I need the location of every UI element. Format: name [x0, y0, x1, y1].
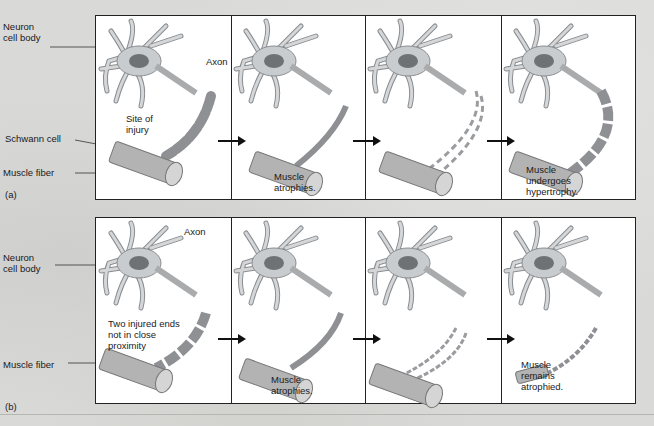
caption-b4: Muscle remains atrophied. [521, 359, 563, 392]
label-axon-a: Axon [206, 56, 228, 67]
label-site-of-injury: Site of injury [126, 113, 153, 135]
arrow-icon [218, 140, 240, 142]
caption-a4: Muscle undergoes hypertrophy. [526, 164, 578, 197]
label-two-injured-ends: Two injured ends not in close proximity [108, 318, 180, 351]
panel-row-a: Axon Site of injury Muscle atrophies. Mu… [95, 15, 636, 200]
arrow-icon [487, 140, 509, 142]
arrow-icon [353, 140, 375, 142]
label-axon-b: Axon [184, 226, 206, 237]
page-rule [0, 414, 654, 415]
caption-b2: Muscle atrophies. [271, 374, 313, 396]
arrow-icon [353, 338, 375, 340]
arrow-icon [487, 338, 509, 340]
panel-row-b: Axon Two injured ends not in close proxi… [95, 217, 636, 404]
arrow-icon [218, 338, 240, 340]
caption-a2: Muscle atrophies. [274, 171, 316, 193]
